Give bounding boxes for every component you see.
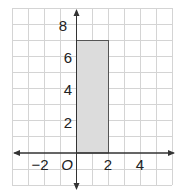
x-tick-label: −2	[31, 156, 48, 173]
y-tick-label: 2	[64, 114, 72, 131]
y-tick-label: 4	[64, 81, 72, 98]
x-tick-label: 2	[104, 156, 112, 173]
x-tick-label: 4	[136, 156, 144, 173]
y-tick-label: 6	[64, 49, 72, 66]
shaded-rectangle	[77, 41, 109, 154]
y-tick-label: 8	[59, 17, 67, 34]
coordinate-plane: 8 6 4 2 −2 2 4 O	[0, 0, 180, 193]
origin-label: O	[61, 156, 73, 173]
